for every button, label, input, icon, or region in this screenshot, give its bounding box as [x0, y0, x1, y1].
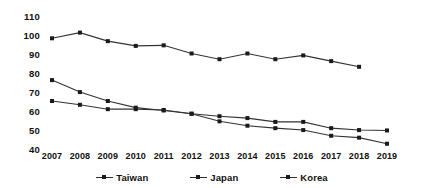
y-tick-label: 90: [29, 48, 40, 59]
chart-legend: TaiwanJapanKorea: [0, 168, 424, 186]
data-point-marker: [245, 124, 249, 128]
x-tick-label: 2017: [321, 151, 341, 161]
legend-marker-icon: [280, 173, 297, 181]
data-point-marker: [162, 43, 166, 47]
x-tick-label: 2019: [377, 151, 397, 161]
data-point-marker: [78, 31, 82, 35]
x-axis: 2007200820092010201120122013201420152016…: [0, 151, 424, 165]
data-point-marker: [357, 136, 361, 140]
x-tick-label: 2015: [265, 151, 285, 161]
data-point-marker: [218, 57, 222, 61]
legend-marker-icon: [190, 173, 207, 181]
data-point-marker: [273, 126, 277, 130]
y-tick-label: 50: [29, 124, 40, 135]
data-point-marker: [245, 52, 249, 56]
series-japan: [50, 78, 389, 132]
legend-entry-japan[interactable]: Japan: [190, 172, 238, 183]
series-taiwan: [50, 31, 361, 69]
legend-label: Korea: [300, 172, 327, 183]
data-point-marker: [357, 128, 361, 132]
x-tick-label: 2016: [293, 151, 313, 161]
y-tick-label: 100: [24, 29, 40, 40]
y-tick-label: 80: [29, 67, 40, 78]
data-point-marker: [190, 112, 194, 116]
data-point-marker: [134, 107, 138, 111]
y-tick-label: 110: [24, 10, 40, 21]
data-point-marker: [301, 53, 305, 57]
data-point-marker: [50, 36, 54, 40]
data-point-marker: [357, 65, 361, 69]
x-tick-label: 2007: [42, 151, 62, 161]
data-point-marker: [301, 128, 305, 132]
data-point-marker: [385, 142, 389, 146]
data-point-marker: [50, 78, 54, 82]
legend-label: Japan: [210, 172, 238, 183]
line-chart: 405060708090100110 200720082009201020112…: [0, 0, 424, 188]
x-tick-label: 2011: [154, 151, 174, 161]
y-tick-label: 60: [29, 105, 40, 116]
data-point-marker: [106, 39, 110, 43]
data-point-marker: [329, 59, 333, 63]
x-tick-label: 2014: [237, 151, 257, 161]
data-point-marker: [329, 126, 333, 130]
x-tick-label: 2013: [209, 151, 229, 161]
data-point-marker: [385, 128, 389, 132]
data-point-marker: [273, 120, 277, 124]
data-point-marker: [134, 44, 138, 48]
y-tick-label: 70: [29, 86, 40, 97]
x-tick-label: 2018: [349, 151, 369, 161]
data-point-marker: [50, 99, 54, 103]
legend-marker-icon: [96, 173, 113, 181]
legend-entry-taiwan[interactable]: Taiwan: [96, 172, 148, 183]
data-point-marker: [162, 108, 166, 112]
legend-label: Taiwan: [116, 172, 148, 183]
data-point-marker: [218, 119, 222, 123]
series-line: [52, 33, 359, 67]
x-tick-label: 2010: [126, 151, 146, 161]
x-tick-label: 2009: [98, 151, 118, 161]
data-point-marker: [78, 103, 82, 107]
data-point-marker: [301, 120, 305, 124]
data-point-marker: [329, 134, 333, 138]
x-tick-label: 2012: [181, 151, 201, 161]
data-point-marker: [273, 57, 277, 61]
series-korea: [50, 99, 389, 146]
x-tick-label: 2008: [70, 151, 90, 161]
legend-entry-korea[interactable]: Korea: [280, 172, 327, 183]
data-point-marker: [218, 114, 222, 118]
data-point-marker: [106, 107, 110, 111]
data-point-marker: [78, 90, 82, 94]
data-point-marker: [106, 99, 110, 103]
data-point-marker: [245, 116, 249, 120]
data-point-marker: [190, 52, 194, 56]
